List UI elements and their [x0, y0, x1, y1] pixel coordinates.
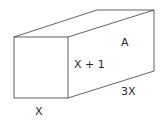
length-label: 3X: [121, 85, 136, 98]
width-label: X: [35, 105, 43, 118]
top-right-edge: [68, 10, 154, 37]
area-label: A: [121, 36, 129, 49]
top-left-edge: [14, 10, 97, 37]
bottom-right-edge: [68, 71, 154, 98]
height-label: X + 1: [74, 58, 105, 71]
prism-diagram: A X + 1 3X X: [0, 0, 164, 122]
front-face: [14, 37, 68, 98]
